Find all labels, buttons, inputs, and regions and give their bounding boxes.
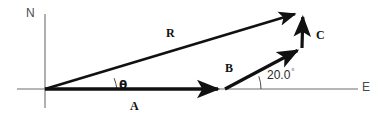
north-axis-label: N: [26, 7, 35, 19]
vector-r-label: R: [166, 27, 175, 39]
twenty-degree-angle-label: 20.0°: [267, 68, 295, 81]
east-axis-label: E: [362, 81, 370, 93]
angle-value-text: 20.0: [267, 68, 290, 82]
twenty-degree-angle-arc: [259, 76, 261, 89]
vector-diagram-canvas: [0, 0, 388, 126]
vector-a-label: A: [130, 100, 139, 112]
vector-c-arrow: [302, 17, 303, 48]
degree-symbol-icon: °: [291, 67, 294, 76]
theta-angle-label: θ: [119, 79, 127, 91]
vector-b-label: B: [225, 62, 233, 74]
vector-diagram-figure: N E R A B C θ 20.0°: [0, 0, 388, 126]
vector-c-label: C: [316, 29, 325, 41]
